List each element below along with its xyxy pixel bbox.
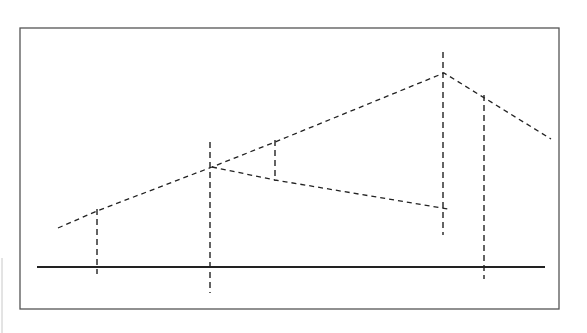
upper-dashed-line xyxy=(58,73,551,228)
vertical-dashed-lines xyxy=(97,52,484,293)
line-diagram xyxy=(0,0,587,333)
lower-dashed-line xyxy=(212,167,448,209)
